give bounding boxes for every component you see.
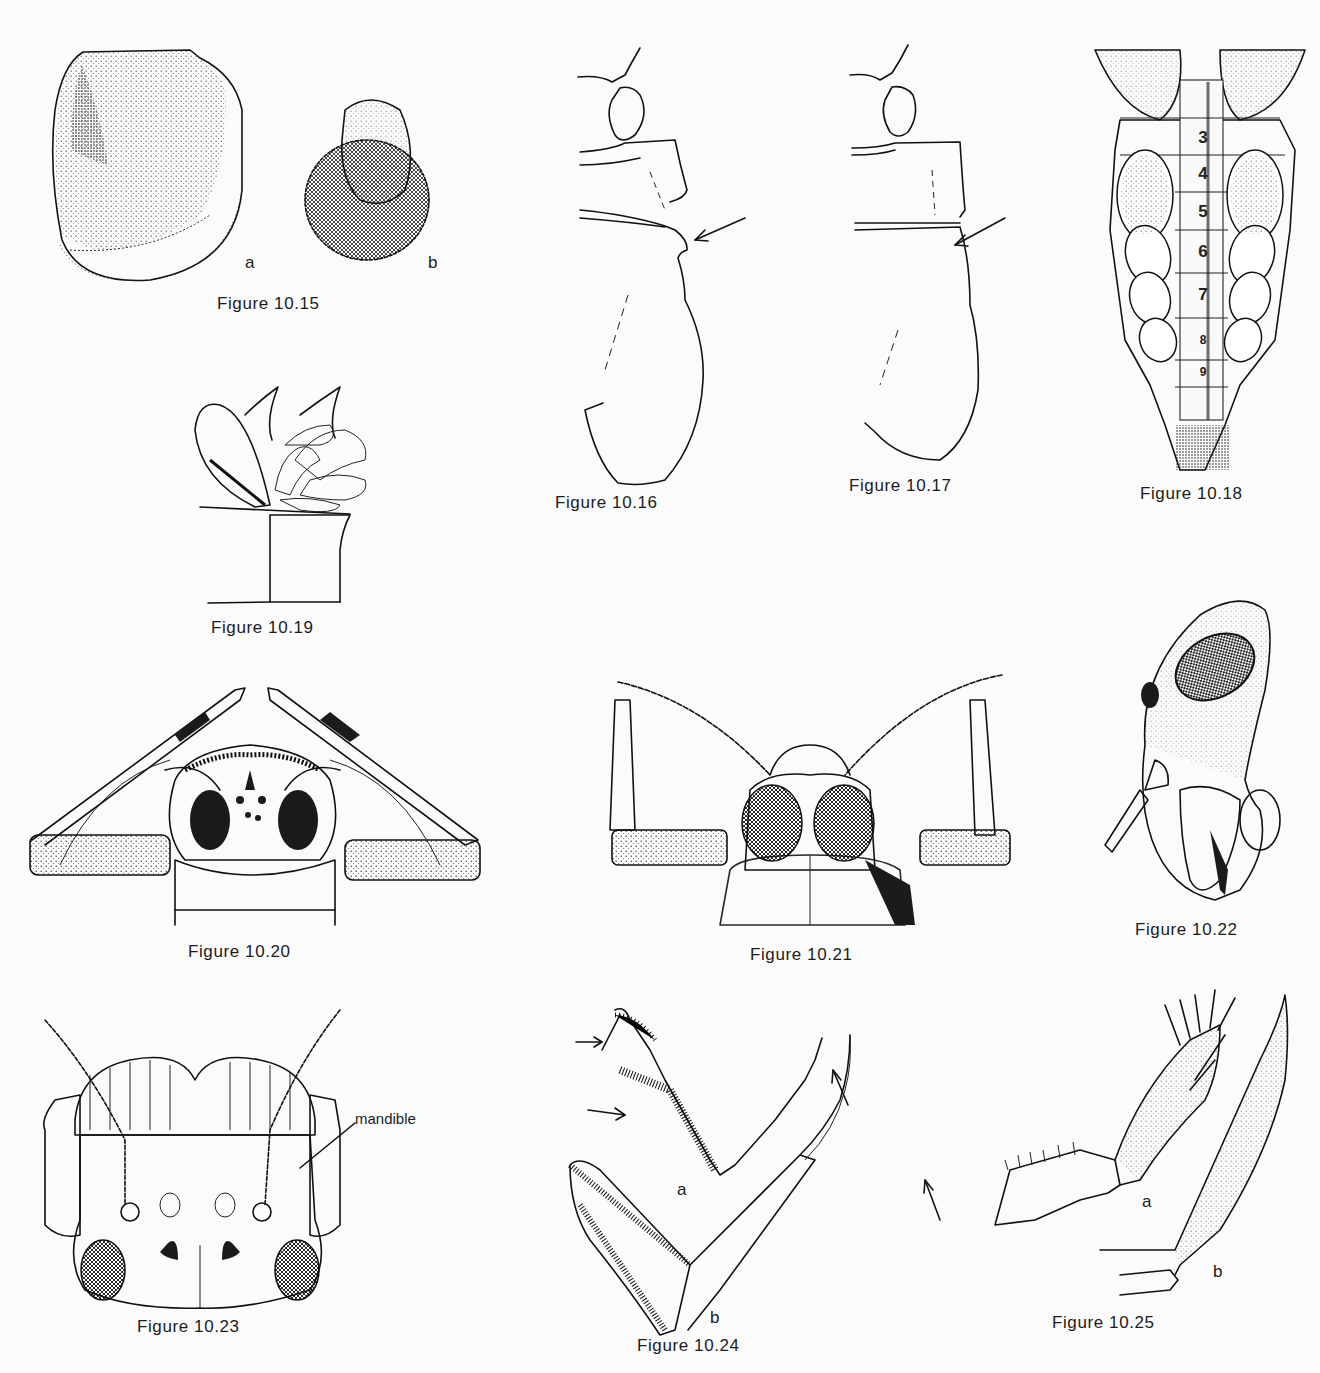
head-front-forelegs xyxy=(0,660,500,970)
figure-10-17-caption: Figure 10.17 xyxy=(849,476,952,496)
figure-10-21-caption: Figure 10.21 xyxy=(750,945,853,965)
figure-10-24-label-a: a xyxy=(677,1180,686,1200)
hairy-case-b xyxy=(305,100,429,260)
segment-number-9: 9 xyxy=(1188,365,1218,379)
figure-10-15-label-a: a xyxy=(245,253,254,273)
figure-10-22: Figure 10.22 xyxy=(1090,590,1320,950)
legs-tarsal-claws xyxy=(540,990,970,1370)
figure-10-23: mandible Figure 10.23 xyxy=(0,990,420,1370)
segment-number-8: 8 xyxy=(1188,333,1218,347)
figure-10-20-caption: Figure 10.20 xyxy=(188,942,291,962)
abdomen-dorsal-illustration xyxy=(1080,40,1320,520)
figure-10-24-caption: Figure 10.24 xyxy=(637,1336,740,1356)
figure-10-25: a b Figure 10.25 xyxy=(980,990,1320,1370)
figure-10-15: a b Figure 10.15 xyxy=(0,0,440,330)
figure-10-19-caption: Figure 10.19 xyxy=(211,618,314,638)
figure-10-22-caption: Figure 10.22 xyxy=(1135,920,1238,940)
segment-number-5: 5 xyxy=(1188,202,1218,222)
segment-number-7: 7 xyxy=(1188,285,1218,305)
figure-10-25-label-b: b xyxy=(1213,1262,1222,1282)
segment-number-3: 3 xyxy=(1188,128,1218,148)
figure-10-25-caption: Figure 10.25 xyxy=(1052,1313,1155,1333)
segment-number-6: 6 xyxy=(1188,242,1218,262)
figure-10-16-caption: Figure 10.16 xyxy=(555,493,658,513)
figure-10-24-label-b: b xyxy=(710,1308,719,1328)
figure-10-24: a b Figure 10.24 xyxy=(540,990,970,1370)
figure-10-15-caption: Figure 10.15 xyxy=(217,294,320,314)
figure-10-18-caption: Figure 10.18 xyxy=(1140,484,1243,504)
figure-10-16: Figure 10.16 xyxy=(540,40,800,520)
mandible-annotation: mandible xyxy=(355,1110,416,1127)
figure-10-19: Figure 10.19 xyxy=(180,370,400,650)
head-lateral-illustration xyxy=(1090,590,1320,950)
figure-10-18: 3 4 5 6 7 8 9 Figure 10.18 xyxy=(1080,40,1320,520)
thorax-outline-no-notch xyxy=(820,40,1060,520)
figure-10-21: Figure 10.21 xyxy=(600,670,1020,970)
figure-10-15-label-b: b xyxy=(428,253,437,273)
head-dorsal-large-eyes xyxy=(600,670,1020,970)
segment-number-4: 4 xyxy=(1188,164,1218,184)
figure-10-17: Figure 10.17 xyxy=(820,40,1060,520)
gill-tuft-illustration xyxy=(180,370,400,650)
figure-10-20: Figure 10.20 xyxy=(0,660,500,970)
shell-case-illustration xyxy=(0,0,440,330)
figure-10-23-caption: Figure 10.23 xyxy=(137,1317,240,1337)
figure-10-25-label-a: a xyxy=(1142,1192,1151,1212)
thorax-outline-notch xyxy=(540,40,800,520)
head-dorsal-mandible xyxy=(0,990,420,1370)
